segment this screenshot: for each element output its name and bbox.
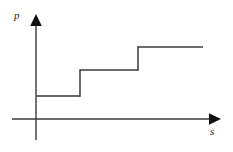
step-function-plot (0, 0, 233, 152)
x-axis-label: s (210, 126, 214, 137)
figure-root: p s (0, 0, 233, 152)
x-axis-arrow-icon (209, 113, 221, 125)
y-axis-label: p (14, 10, 20, 21)
y-axis-arrow-icon (30, 14, 42, 26)
